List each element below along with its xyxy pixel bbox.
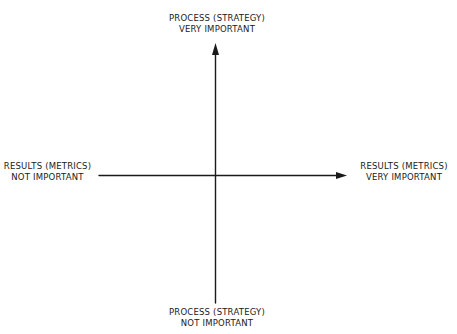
left-axis-label: Results (Metrics) Not Important [0,161,95,183]
left-axis-label-title: Results (Metrics) [0,161,95,172]
top-axis-label-title: Process (Strategy) [165,13,269,24]
bottom-axis-label-title: Process (Strategy) [165,307,269,318]
bottom-axis-label-level: Not Important [165,318,269,329]
right-arrowhead-icon [336,172,347,179]
right-axis-label-title: Results (Metrics) [351,161,457,172]
top-axis-label-level: Very Important [165,24,269,35]
up-arrowhead-icon [212,43,219,55]
bottom-axis-label: Process (Strategy) Not Important [165,307,269,329]
left-axis-label-level: Not Important [0,172,95,183]
top-axis-label: Process (Strategy) Very Important [165,13,269,35]
right-axis-label-level: Very Important [351,172,457,183]
right-axis-label: Results (Metrics) Very Important [351,161,457,183]
